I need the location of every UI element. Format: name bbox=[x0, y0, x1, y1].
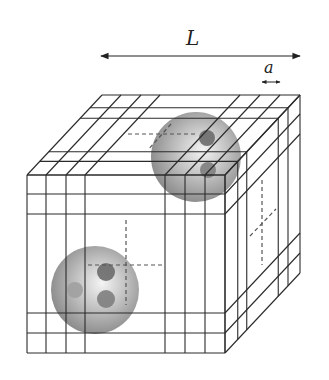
sphere-patch bbox=[67, 282, 83, 298]
top-grid-line bbox=[66, 95, 141, 175]
top-grid-line bbox=[85, 95, 160, 175]
sphere-patch bbox=[199, 130, 215, 146]
lattice-box-diagram: L a bbox=[0, 0, 329, 380]
top-grid-line bbox=[46, 95, 121, 175]
box-length-label: L bbox=[186, 26, 199, 50]
top-grid-line bbox=[27, 95, 102, 175]
side-grid-line bbox=[225, 95, 300, 175]
sphere-patch bbox=[97, 263, 115, 281]
sphere-patch bbox=[200, 162, 216, 178]
side-grid-line bbox=[225, 273, 300, 353]
sphere-patch bbox=[97, 290, 115, 308]
diagram-canvas bbox=[0, 0, 329, 380]
grid-spacing-label: a bbox=[264, 58, 274, 77]
dashed-guide-line bbox=[250, 209, 276, 236]
